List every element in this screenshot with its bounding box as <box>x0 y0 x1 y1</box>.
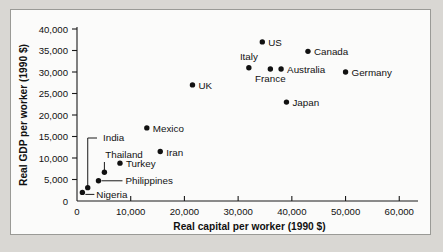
x-tick-label: 50,000 <box>331 206 360 217</box>
point-label-canada: Canada <box>314 46 349 57</box>
point-label-australia: Australia <box>287 64 326 75</box>
y-tick-label: 35,000 <box>39 45 68 56</box>
point-label-iran: Iran <box>166 147 183 158</box>
y-tick-label: 20,000 <box>39 110 68 121</box>
data-point-iran <box>158 149 163 154</box>
data-point-canada <box>305 49 310 54</box>
data-point-india <box>85 185 90 190</box>
y-tick-label: 25,000 <box>39 88 68 99</box>
data-point-turkey <box>117 160 122 165</box>
x-axis-title: Real capital per worker (1990 $) <box>173 221 325 232</box>
x-tick-label: 30,000 <box>223 206 252 217</box>
data-point-italy <box>246 65 251 70</box>
x-tick-label: 40,000 <box>277 206 306 217</box>
x-tick-label: 20,000 <box>170 206 199 217</box>
india-leader-line <box>88 138 97 188</box>
data-point-thailand <box>102 169 107 174</box>
point-label-japan: Japan <box>292 97 319 108</box>
point-label-mexico: Mexico <box>153 123 185 134</box>
chart-panel: 05,00010,00015,00020,00025,00030,00035,0… <box>10 9 431 235</box>
point-label-nigeria: Nigeria <box>96 189 128 200</box>
data-point-germany <box>343 69 348 74</box>
point-label-france: France <box>255 73 286 84</box>
scatter-chart: 05,00010,00015,00020,00025,00030,00035,0… <box>11 10 430 234</box>
data-point-philippines <box>96 178 101 183</box>
point-label-philippines: Philippines <box>125 175 172 186</box>
point-label-india: India <box>103 132 125 143</box>
y-tick-label: 10,000 <box>39 153 68 164</box>
x-tick-label: 60,000 <box>385 206 414 217</box>
point-label-us: US <box>268 37 282 48</box>
data-point-japan <box>284 99 289 104</box>
point-label-italy: Italy <box>240 51 258 62</box>
figure-root: 05,00010,00015,00020,00025,00030,00035,0… <box>0 0 443 252</box>
x-tick-label: 0 <box>74 206 79 217</box>
y-tick-label: 0 <box>63 196 68 207</box>
point-label-turkey: Turkey <box>126 158 156 169</box>
data-point-france <box>268 66 273 71</box>
y-tick-label: 5,000 <box>44 174 68 185</box>
y-tick-label: 30,000 <box>39 67 68 78</box>
y-tick-label: 40,000 <box>39 24 68 35</box>
data-point-australia <box>278 66 283 71</box>
data-point-us <box>260 39 265 44</box>
data-point-nigeria <box>80 190 85 195</box>
data-point-uk <box>190 82 195 87</box>
y-axis-title: Real GDP per worker (1990 $) <box>18 44 29 186</box>
x-tick-label: 10,000 <box>116 206 145 217</box>
point-label-uk: UK <box>198 80 212 91</box>
y-tick-label: 15,000 <box>39 131 68 142</box>
point-label-germany: Germany <box>352 67 392 78</box>
data-point-mexico <box>144 125 149 130</box>
